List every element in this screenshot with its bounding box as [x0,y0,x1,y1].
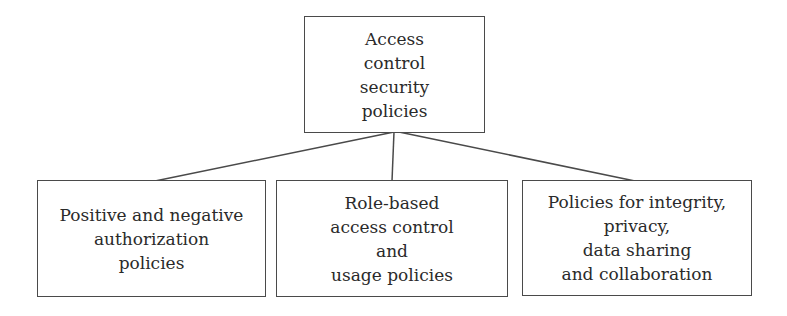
child-node-label: Positive and negative authorization poli… [60,203,244,275]
edge-root-to-authorization [155,132,394,181]
root-node-label: Access control security policies [360,27,429,123]
child-node-authorization-policies: Positive and negative authorization poli… [37,180,266,297]
child-node-label: Role-based access control and usage poli… [330,191,453,287]
child-node-integrity-privacy-policies: Policies for integrity, privacy, data sh… [522,180,752,296]
child-node-label: Policies for integrity, privacy, data sh… [548,190,726,286]
edge-root-to-integrity [399,132,635,181]
edge-root-to-role-based [392,132,394,181]
child-node-role-based-access-control: Role-based access control and usage poli… [276,180,508,297]
root-node-access-control-policies: Access control security policies [304,16,485,133]
